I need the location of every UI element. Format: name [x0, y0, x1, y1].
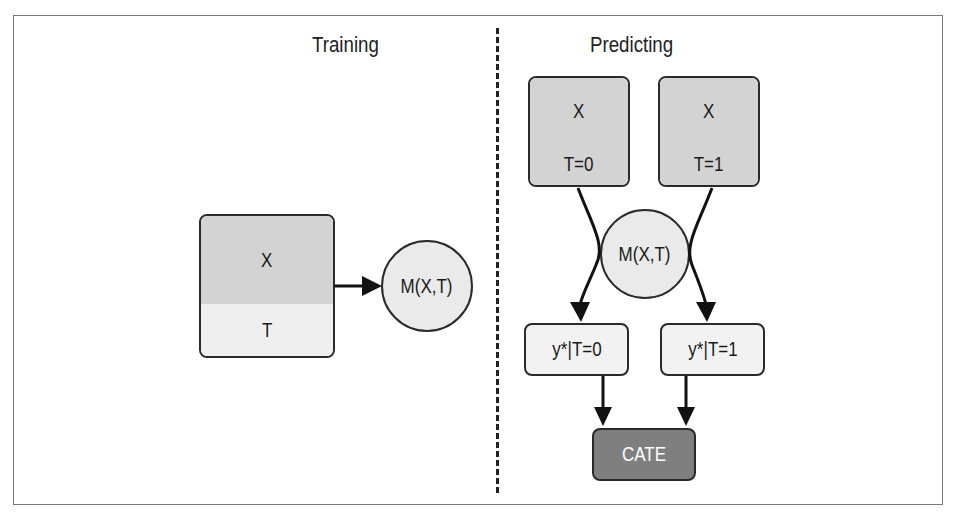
arrow-head-icon [570, 302, 590, 322]
arrow-head-icon [696, 302, 716, 322]
arrow-head-icon [677, 407, 695, 426]
arrow-head-icon [362, 276, 382, 296]
arrow-head-icon [594, 407, 612, 426]
connector-arrows [0, 0, 957, 516]
